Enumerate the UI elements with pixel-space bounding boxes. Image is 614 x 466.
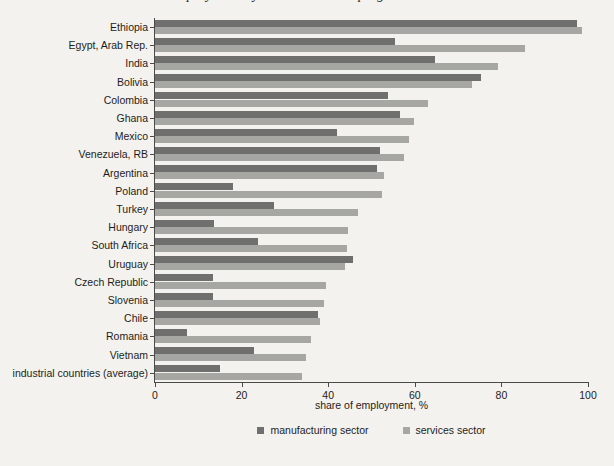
bar-manufacturing	[155, 183, 233, 190]
bar-services	[155, 81, 472, 88]
category-label: industrial countries (average)	[0, 368, 148, 379]
bar-services	[155, 227, 348, 234]
category-label: South Africa	[0, 240, 148, 251]
bar-services	[155, 300, 324, 307]
bar-group: Turkey	[155, 200, 588, 218]
category-label: Egypt, Arab Rep.	[0, 40, 148, 51]
chart-page: employment by sector in developing count…	[0, 0, 614, 466]
bar-group: Hungary	[155, 218, 588, 236]
clipped-figure-title: employment by sector in developing count…	[0, 0, 614, 5]
x-axis-label: share of employment, %	[155, 399, 588, 411]
category-label: Romania	[0, 331, 148, 342]
bar-manufacturing	[155, 311, 318, 318]
category-label: Ghana	[0, 113, 148, 124]
bar-group: industrial countries (average)	[155, 364, 588, 382]
bar-group: Vietnam	[155, 346, 588, 364]
legend-label-services: services sector	[416, 424, 486, 436]
bar-services	[155, 154, 404, 161]
category-label: Uruguay	[0, 259, 148, 270]
category-label: India	[0, 58, 148, 69]
bar-manufacturing	[155, 56, 435, 63]
category-label: Hungary	[0, 222, 148, 233]
category-label: Czech Republic	[0, 277, 148, 288]
chart-legend: manufacturing sector services sector	[155, 424, 588, 436]
category-label: Colombia	[0, 95, 148, 106]
bar-services	[155, 100, 428, 107]
bar-services	[155, 373, 302, 380]
bar-services	[155, 245, 347, 252]
category-label: Bolivia	[0, 77, 148, 88]
category-label: Vietnam	[0, 350, 148, 361]
bar-group: Colombia	[155, 91, 588, 109]
category-label: Ethiopia	[0, 22, 148, 33]
x-axis-line	[154, 382, 588, 383]
bar-group: Bolivia	[155, 73, 588, 91]
legend-label-manufacturing: manufacturing sector	[270, 424, 368, 436]
bar-group: Venezuela, RB	[155, 145, 588, 163]
bar-services	[155, 354, 306, 361]
bar-services	[155, 336, 311, 343]
bar-manufacturing	[155, 202, 274, 209]
x-tick	[501, 382, 502, 387]
bar-manufacturing	[155, 20, 577, 27]
legend-item-services: services sector	[403, 424, 486, 436]
bar-manufacturing	[155, 147, 380, 154]
bar-manufacturing	[155, 220, 214, 227]
bar-services	[155, 45, 525, 52]
bar-services	[155, 282, 326, 289]
bar-services	[155, 63, 498, 70]
bar-group: Slovenia	[155, 291, 588, 309]
bar-manufacturing	[155, 38, 395, 45]
bar-group: Argentina	[155, 164, 588, 182]
bar-services	[155, 27, 582, 34]
bar-group: Egypt, Arab Rep.	[155, 36, 588, 54]
bar-group: Poland	[155, 182, 588, 200]
legend-swatch-manufacturing-icon	[257, 427, 264, 434]
bar-manufacturing	[155, 129, 337, 136]
bar-group: Romania	[155, 327, 588, 345]
bar-services	[155, 172, 384, 179]
bar-manufacturing	[155, 92, 388, 99]
legend-item-manufacturing: manufacturing sector	[257, 424, 368, 436]
plot-area: 020406080100 EthiopiaEgypt, Arab Rep.Ind…	[155, 18, 588, 382]
category-label: Argentina	[0, 168, 148, 179]
bar-manufacturing	[155, 365, 220, 372]
bar-manufacturing	[155, 329, 187, 336]
category-label: Chile	[0, 313, 148, 324]
bar-services	[155, 118, 414, 125]
bar-manufacturing	[155, 111, 400, 118]
x-tick	[328, 382, 329, 387]
bar-group: South Africa	[155, 236, 588, 254]
category-label: Mexico	[0, 131, 148, 142]
bar-manufacturing	[155, 165, 377, 172]
legend-swatch-services-icon	[403, 427, 410, 434]
bar-group: Mexico	[155, 127, 588, 145]
bar-group: Czech Republic	[155, 273, 588, 291]
bar-group: Ghana	[155, 109, 588, 127]
bar-group: Uruguay	[155, 255, 588, 273]
x-tick	[588, 382, 589, 387]
bar-manufacturing	[155, 74, 481, 81]
bar-services	[155, 318, 320, 325]
bar-group: Ethiopia	[155, 18, 588, 36]
category-label: Venezuela, RB	[0, 149, 148, 160]
x-tick	[242, 382, 243, 387]
bar-manufacturing	[155, 293, 213, 300]
bar-services	[155, 136, 409, 143]
bar-manufacturing	[155, 238, 258, 245]
category-label: Turkey	[0, 204, 148, 215]
x-tick	[415, 382, 416, 387]
category-label: Poland	[0, 186, 148, 197]
bar-group: Chile	[155, 309, 588, 327]
bar-manufacturing	[155, 347, 254, 354]
bar-group: India	[155, 54, 588, 72]
bar-services	[155, 191, 382, 198]
bar-services	[155, 209, 358, 216]
bar-manufacturing	[155, 256, 353, 263]
bar-services	[155, 263, 345, 270]
x-tick	[155, 382, 156, 387]
category-label: Slovenia	[0, 295, 148, 306]
bar-manufacturing	[155, 274, 213, 281]
